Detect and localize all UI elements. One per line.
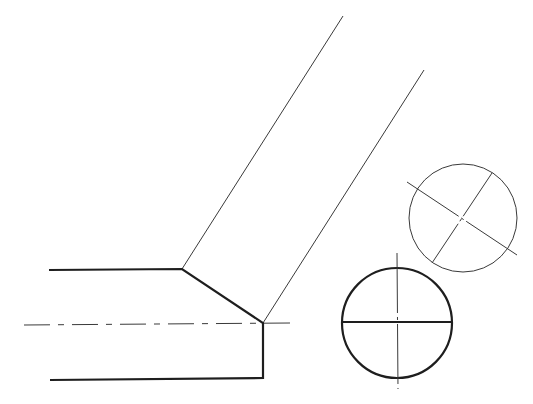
diagram-canvas: Orthographic projection of a cylinder cu… xyxy=(0,0,533,404)
projection-lines xyxy=(182,16,424,323)
technical-drawing xyxy=(0,0,533,404)
auxiliary-view xyxy=(407,164,517,272)
projection-line-lower xyxy=(263,70,424,323)
front-view-centerline xyxy=(24,323,290,325)
projection-line-upper xyxy=(182,16,343,269)
front-view xyxy=(24,269,290,380)
auxiliary-view-circle xyxy=(409,164,517,272)
auxiliary-view-axis-a xyxy=(407,182,517,255)
end-view xyxy=(342,253,452,389)
